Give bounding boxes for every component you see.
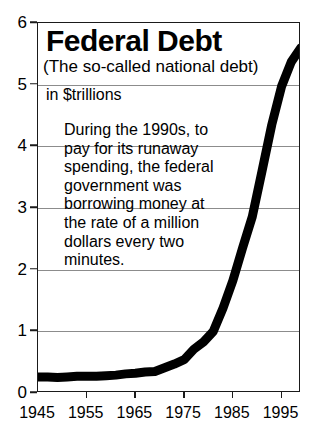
x-tick-mark-1965 (134, 392, 136, 398)
y-tick-mark-6 (30, 21, 37, 23)
y-tick-label-4: 4 (18, 137, 27, 154)
annotation-text: During the 1990s, topay for its runaways… (64, 121, 254, 270)
x-tick-label-1955: 1955 (68, 405, 104, 421)
y-tick-label-5: 5 (18, 75, 27, 92)
annotation-line: During the 1990s, to (64, 121, 254, 140)
x-tick-label-1965: 1965 (117, 405, 153, 421)
y-tick-label-2: 2 (18, 260, 27, 277)
annotation-line: borrowing money at (64, 195, 254, 214)
annotation-line: government was (64, 177, 254, 196)
chart-subtitle: (The so-called national debt) (43, 57, 258, 76)
plot-area: Federal Debt (The so-called national deb… (37, 22, 300, 392)
y-tick-label-1: 1 (18, 322, 27, 339)
y-tick-mark-2 (30, 268, 37, 270)
chart-title: Federal Debt (46, 25, 222, 57)
y-axis: 0123456 (0, 0, 37, 440)
federal-debt-chart: 0123456 Federal Debt (The so-called nati… (0, 0, 321, 440)
y-tick-label-3: 3 (18, 199, 27, 216)
annotation-line: spending, the federal (64, 158, 254, 177)
annotation-line: pay for its runaway (64, 140, 254, 159)
y-tick-mark-4 (30, 145, 37, 147)
y-tick-mark-3 (30, 206, 37, 208)
x-tick-mark-1985 (232, 392, 234, 398)
y-tick-mark-1 (30, 330, 37, 332)
x-tick-mark-1975 (183, 392, 185, 398)
x-tick-label-1985: 1985 (214, 405, 250, 421)
x-tick-mark-1995 (281, 392, 283, 398)
x-tick-label-1975: 1975 (165, 405, 201, 421)
y-tick-mark-5 (30, 83, 37, 85)
x-tick-label-1945: 1945 (19, 405, 55, 421)
annotation-line: minutes. (64, 251, 254, 270)
y-tick-label-6: 6 (18, 14, 27, 31)
x-axis: 194519551965197519851995 (0, 392, 321, 440)
annotation-line: the rate of a million (64, 214, 254, 233)
x-tick-label-1995: 1995 (263, 405, 299, 421)
annotation-line: dollars every two (64, 233, 254, 252)
x-tick-mark-1955 (86, 392, 88, 398)
unit-label: in $trillions (46, 86, 122, 104)
